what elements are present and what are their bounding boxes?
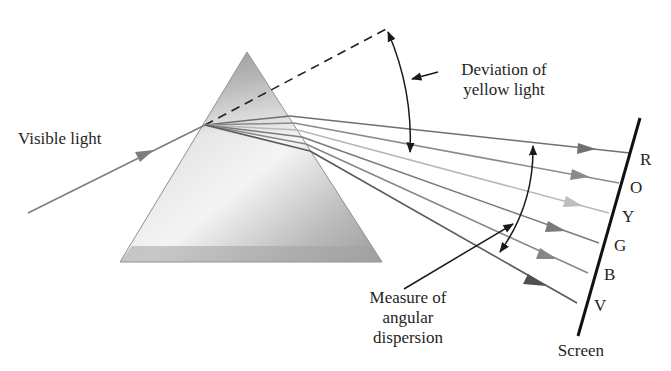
label-dispersion-line2: angular <box>353 308 463 328</box>
label-screen: Screen <box>546 341 616 361</box>
incident-arrowhead-icon <box>135 150 154 162</box>
spectrum-letter-yellow: Y <box>622 207 634 227</box>
label-deviation: Deviation of yellow light <box>441 60 567 100</box>
prism-dispersion-diagram <box>0 0 671 371</box>
label-angular-dispersion: Measure of angular dispersion <box>353 288 463 348</box>
spectrum-letter-red: R <box>640 150 651 170</box>
ray-orange-arrowhead-icon <box>570 169 590 180</box>
ray-violet-arrowhead-icon <box>523 274 546 286</box>
spectrum-letter-blue: B <box>604 265 615 285</box>
label-dispersion-line1: Measure of <box>353 288 463 308</box>
ray-green-arrowhead-icon <box>545 221 566 232</box>
prism <box>120 52 382 262</box>
ray-red-arrowhead-icon <box>577 143 596 154</box>
label-dispersion-line3: dispersion <box>353 328 463 348</box>
ray-yellow-arrowhead-icon <box>563 196 583 207</box>
label-visible-light: Visible light <box>18 129 102 149</box>
label-deviation-line1: Deviation of <box>441 60 567 80</box>
deviation-angle-indicator <box>388 32 438 152</box>
spectrum-letter-violet: V <box>594 296 606 316</box>
spectrum-letter-green: G <box>614 236 626 256</box>
spectrum-letter-orange: O <box>630 178 642 198</box>
ray-orange <box>294 123 619 183</box>
ray-blue-arrowhead-icon <box>536 248 557 259</box>
label-deviation-line2: yellow light <box>441 80 567 100</box>
ray-red <box>290 116 630 154</box>
